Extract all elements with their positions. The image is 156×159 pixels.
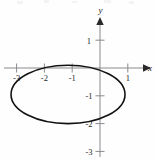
ellipse-graph-figure: -3 -2 -1 1 1 -1 -2 -3 x y xyxy=(0,0,156,159)
y-tick-label: -1 xyxy=(85,91,92,101)
y-tick-label: -3 xyxy=(85,147,92,157)
x-axis-label: x xyxy=(147,63,152,73)
y-tick-label: 1 xyxy=(87,36,91,46)
x-tick-label: -2 xyxy=(41,73,48,83)
y-tick-label: -2 xyxy=(85,119,92,129)
x-tick-label: 1 xyxy=(126,73,130,83)
plot-canvas: -3 -2 -1 1 1 -1 -2 -3 x y xyxy=(0,0,156,159)
x-tick-label: -1 xyxy=(69,73,76,83)
x-tick-label: -3 xyxy=(13,73,20,83)
y-axis-label: y xyxy=(98,5,103,15)
y-axis-arrow-icon xyxy=(96,17,103,25)
